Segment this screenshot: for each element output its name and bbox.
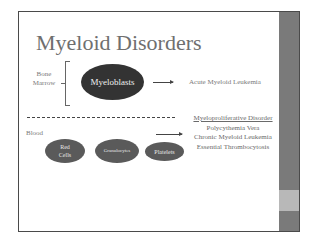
granulocytes-label: Granulocytes (104, 147, 131, 155)
bone-marrow-label: Bone Marrow (31, 70, 57, 88)
myeloblasts-label: Myeloblasts (91, 78, 135, 86)
acute-arrow (153, 82, 173, 83)
bone-marrow-bracket (65, 61, 70, 106)
red-cells-line2: Cells (59, 151, 71, 159)
sidebar-accent-block (279, 190, 299, 211)
red-cells-line1: Red (59, 143, 71, 151)
myeloblasts-ellipse: Myeloblasts (81, 64, 144, 100)
mpd-item-essential-thrombocytosis: Essential Thrombocytosis (179, 143, 287, 153)
slide-title: Myeloid Disorders (36, 30, 202, 56)
bone-marrow-label-line1: Bone (31, 70, 57, 79)
mpd-item-cml: Chronic Myeloid Leukemia (179, 133, 287, 143)
mpd-heading: Myeloproliferative Disorder (179, 114, 287, 124)
slide: Myeloid Disorders Bone Marrow Myeloblast… (18, 11, 300, 232)
decorative-sidebar (279, 12, 299, 231)
blood-label: Blood (26, 129, 43, 138)
platelets-label: Platelets (154, 148, 174, 156)
divider-dashed (27, 117, 175, 118)
acute-myeloid-leukemia-label: Acute Myeloid Leukemia (189, 78, 261, 87)
mpd-list: Myeloproliferative Disorder Polycythemia… (179, 114, 287, 152)
granulocytes-ellipse: Granulocytes (95, 139, 139, 163)
bone-marrow-label-line2: Marrow (31, 79, 57, 88)
mpd-item-polycythemia-vera: Polycythemia Vera (179, 124, 287, 134)
red-cells-ellipse: Red Cells (45, 139, 85, 163)
